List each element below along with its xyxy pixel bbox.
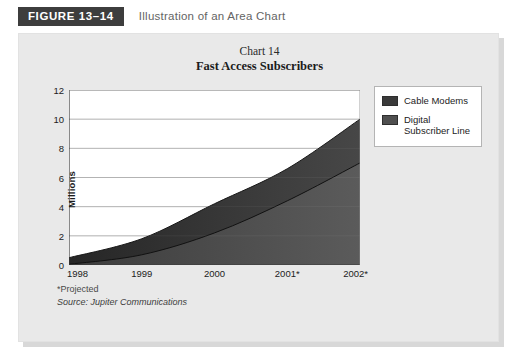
chart-subtitle: Fast Access Subscribers	[19, 59, 500, 74]
chart-title: Chart 14	[19, 45, 500, 57]
y-axis-label: Millions	[66, 171, 77, 208]
footnote-source: Source: Jupiter Communications	[57, 297, 187, 307]
y-tick-label: 8	[59, 143, 64, 154]
x-tick-label: 2000	[204, 268, 225, 279]
y-tick-label: 4	[59, 201, 64, 212]
x-tick-label: 1998	[67, 268, 88, 279]
area-chart-svg	[69, 90, 360, 265]
chart-legend: Cable Modems Digital Subscriber Line	[374, 86, 482, 147]
figure-badge: FIGURE 13–14	[18, 7, 124, 26]
x-tick-label: 2001*	[275, 268, 300, 279]
legend-swatch-digital-subscriber-line	[382, 115, 398, 125]
y-tick-label: 6	[59, 172, 64, 183]
plot-area: Millions 024681012 1998199920002001*2002…	[69, 90, 360, 265]
legend-swatch-cable-modems	[382, 96, 398, 106]
x-tick-label: 2002*	[343, 268, 368, 279]
y-tick-label: 0	[59, 260, 64, 271]
y-tick-label: 2	[59, 230, 64, 241]
figure-header: FIGURE 13–14 Illustration of an Area Cha…	[18, 6, 285, 26]
footnote-projected: *Projected	[57, 284, 99, 294]
legend-label-digital-subscriber-line: Digital Subscriber Line	[404, 114, 474, 137]
figure-container: FIGURE 13–14 Illustration of an Area Cha…	[0, 0, 527, 356]
y-tick-label: 10	[53, 114, 64, 125]
y-tick-label: 12	[53, 85, 64, 96]
x-tick-label: 1999	[131, 268, 152, 279]
legend-label-cable-modems: Cable Modems	[404, 95, 468, 107]
legend-item: Cable Modems	[382, 95, 474, 107]
chart-panel: Chart 14 Fast Access Subscribers Million…	[18, 33, 499, 342]
figure-caption: Illustration of an Area Chart	[139, 10, 286, 22]
legend-item: Digital Subscriber Line	[382, 114, 474, 137]
